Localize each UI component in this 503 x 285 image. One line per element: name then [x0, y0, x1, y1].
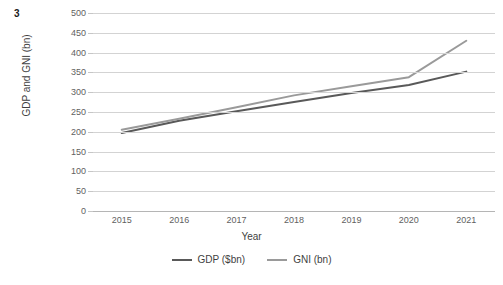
y-axis-tick-mark: [88, 92, 93, 93]
y-axis-tick-mark: [88, 211, 93, 212]
chart-legend: GDP ($bn)GNI (bn): [0, 255, 503, 265]
legend-label: GNI (bn): [293, 255, 331, 265]
y-axis-tick-label: 450: [56, 28, 86, 37]
y-axis-tick-mark: [88, 132, 93, 133]
x-axis-tick-label: 2017: [214, 215, 260, 225]
y-axis-tick-mark: [88, 191, 93, 192]
x-axis-title: Year: [0, 231, 503, 242]
x-axis-tick-label: 2019: [328, 215, 374, 225]
gridline: [93, 152, 495, 153]
y-axis-tick-label: 350: [56, 68, 86, 77]
y-axis-title: GDP and GNI (bn): [21, 6, 32, 146]
y-axis-tick-label: 100: [56, 167, 86, 176]
legend-line-icon: [267, 259, 287, 261]
y-axis-tick-mark: [88, 152, 93, 153]
y-axis-tick-labels: 050100150200250300350400450500: [52, 13, 86, 211]
plot-area: [93, 13, 495, 211]
x-axis-tick-label: 2021: [443, 215, 489, 225]
y-axis-tick-label: 500: [56, 9, 86, 18]
y-axis-tick-mark: [88, 53, 93, 54]
legend-label: GDP ($bn): [198, 255, 246, 265]
legend-item[interactable]: GDP ($bn): [172, 255, 246, 265]
y-axis-tick-label: 150: [56, 147, 86, 156]
legend-line-icon: [172, 259, 192, 261]
gridline: [93, 171, 495, 172]
x-axis-tick-label: 2018: [271, 215, 317, 225]
gridline: [93, 132, 495, 133]
legend-item[interactable]: GNI (bn): [267, 255, 331, 265]
y-axis-tick-mark: [88, 112, 93, 113]
y-axis-tick-label: 200: [56, 127, 86, 136]
x-axis-tick-label: 2020: [386, 215, 432, 225]
x-axis-tick-label: 2015: [99, 215, 145, 225]
series-line: [122, 72, 467, 133]
x-axis-tick-label: 2016: [156, 215, 202, 225]
series-line: [122, 41, 467, 130]
gridline: [93, 13, 495, 14]
gridline: [93, 72, 495, 73]
y-axis-title-wrapper: GDP and GNI (bn): [0, 0, 1, 1]
y-axis-tick-label: 50: [56, 187, 86, 196]
y-axis-tick-mark: [88, 72, 93, 73]
y-axis-tick-label: 0: [56, 207, 86, 216]
y-axis-tick-mark: [88, 171, 93, 172]
gridline: [93, 92, 495, 93]
gridline: [93, 112, 495, 113]
y-axis-tick-mark: [88, 33, 93, 34]
y-axis-tick-label: 300: [56, 88, 86, 97]
chart-figure: 3 GDP and GNI (bn) 050100150200250300350…: [0, 0, 503, 285]
gridline: [93, 53, 495, 54]
y-axis-tick-label: 250: [56, 108, 86, 117]
gridline: [93, 191, 495, 192]
x-axis-line: [93, 211, 495, 212]
figure-number-label: 3: [14, 8, 20, 19]
gridline: [93, 33, 495, 34]
y-axis-tick-mark: [88, 13, 93, 14]
y-axis-tick-label: 400: [56, 48, 86, 57]
